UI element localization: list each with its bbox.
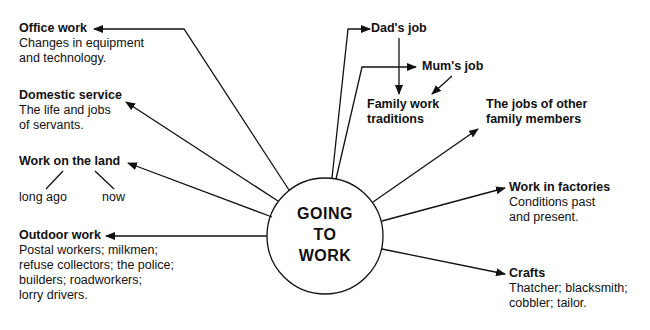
node-domestic-service: Domestic service The life and jobs of se…	[19, 88, 122, 133]
branch-now	[95, 171, 114, 189]
arrow-work-on-land	[128, 163, 272, 217]
arrow-crafts	[382, 249, 505, 274]
node-dads-job: Dad's job	[371, 21, 427, 36]
sub-long-ago: long ago	[19, 190, 67, 204]
arrow-other-family	[373, 129, 478, 202]
node-outdoor-work: Outdoor work Postal workers; milkmen; re…	[19, 228, 174, 303]
node-factories: Work in factories Conditions past and pr…	[509, 180, 610, 225]
sub-now: now	[102, 190, 125, 204]
branch-long-ago	[46, 171, 63, 189]
arrow-dads-job	[332, 29, 370, 178]
node-mums-job: Mum's job	[422, 59, 483, 74]
node-family-traditions: Family work traditions	[367, 97, 439, 127]
arrow-mum-to-traditions	[432, 76, 452, 94]
center-topic: GOING TO WORK	[267, 203, 383, 266]
arrow-factories	[382, 188, 505, 221]
node-work-on-land: Work on the land	[19, 154, 120, 169]
node-other-family: The jobs of other family members	[486, 97, 587, 127]
node-crafts: Crafts Thatcher; blacksmith; cobbler; ta…	[509, 266, 628, 311]
node-office-work: Office work Changes in equipment and tec…	[19, 21, 144, 66]
arrow-domestic-service	[126, 102, 278, 201]
